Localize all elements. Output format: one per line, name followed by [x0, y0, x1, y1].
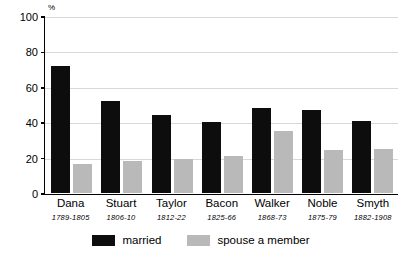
- bar: [352, 121, 371, 193]
- legend-label: spouse a member: [217, 234, 309, 246]
- x-axis-label-cell: Stuart1806-10: [96, 197, 146, 223]
- legend-swatch: [92, 235, 115, 246]
- x-axis-label-cell: Dana1789-1805: [46, 197, 96, 223]
- bar-group: [47, 17, 97, 193]
- category-years: 1812-22: [146, 213, 196, 223]
- y-axis-tick-label: 40: [26, 118, 38, 129]
- y-axis-tick: [41, 52, 45, 54]
- bar: [274, 131, 293, 192]
- y-axis-tick-label: 100: [20, 12, 38, 23]
- category-years: 1825-66: [197, 213, 247, 223]
- category-name: Smyth: [348, 197, 398, 210]
- x-axis-label-cell: Taylor1812-22: [146, 197, 196, 223]
- bar: [202, 122, 221, 192]
- x-axis-label-cell: Bacon1825-66: [197, 197, 247, 223]
- y-axis-tick: [41, 193, 45, 195]
- y-axis-tick: [41, 158, 45, 160]
- bar: [174, 159, 193, 192]
- bar: [324, 150, 343, 192]
- bar: [73, 164, 92, 192]
- category-years: 1806-10: [96, 213, 146, 223]
- legend-entry: married: [92, 234, 161, 246]
- y-axis-tick-label: 80: [26, 47, 38, 58]
- category-name: Dana: [46, 197, 96, 210]
- x-axis-labels: Dana1789-1805Stuart1806-10Taylor1812-22B…: [46, 197, 399, 223]
- bar-group: [97, 17, 147, 193]
- category-name: Noble: [297, 197, 347, 210]
- legend-swatch: [187, 235, 210, 246]
- category-name: Taylor: [146, 197, 196, 210]
- bar-group: [298, 17, 348, 193]
- bar: [123, 161, 142, 193]
- y-axis-unit-label: %: [48, 3, 55, 12]
- bar: [252, 108, 271, 192]
- bar: [152, 115, 171, 192]
- category-name: Bacon: [197, 197, 247, 210]
- bar-group: [247, 17, 297, 193]
- bar-group: [147, 17, 197, 193]
- category-years: 1882-1908: [348, 213, 398, 223]
- bar: [224, 156, 243, 193]
- x-axis-label-cell: Walker1868-73: [247, 197, 297, 223]
- bar: [302, 110, 321, 192]
- bar: [51, 66, 70, 192]
- y-axis-tick: [41, 122, 45, 124]
- bar: [101, 101, 120, 192]
- bar-groups: [47, 17, 399, 193]
- x-axis-label-cell: Noble1875-79: [297, 197, 347, 223]
- bar: [374, 149, 393, 193]
- legend-label: married: [122, 234, 161, 246]
- y-axis-tick: [41, 16, 45, 18]
- y-axis-tick: [41, 87, 45, 89]
- legend-entry: spouse a member: [187, 234, 309, 246]
- y-axis-tick-label: 0: [32, 189, 38, 200]
- category-name: Walker: [247, 197, 297, 210]
- bar-chart: % 020406080100 Dana1789-1805Stuart1806-1…: [0, 0, 402, 255]
- category-years: 1868-73: [247, 213, 297, 223]
- chart-legend: marriedspouse a member: [0, 234, 402, 246]
- category-years: 1875-79: [297, 213, 347, 223]
- y-axis-tick-label: 20: [26, 153, 38, 164]
- x-axis-label-cell: Smyth1882-1908: [348, 197, 398, 223]
- category-years: 1789-1805: [46, 213, 96, 223]
- bar-group: [348, 17, 398, 193]
- bar-group: [197, 17, 247, 193]
- y-axis-tick-label: 60: [26, 82, 38, 93]
- category-name: Stuart: [96, 197, 146, 210]
- plot-area: 020406080100: [44, 17, 398, 195]
